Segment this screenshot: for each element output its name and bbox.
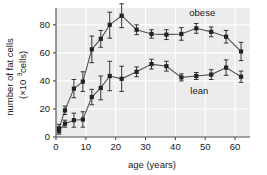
y-tick-label-80: 80 bbox=[39, 19, 50, 30]
data-point-marker bbox=[194, 26, 198, 30]
data-point-marker bbox=[194, 74, 198, 78]
y-tick-label-60: 60 bbox=[39, 47, 50, 58]
data-point-marker bbox=[108, 23, 112, 27]
data-point-marker bbox=[120, 77, 124, 81]
series-annotation-lean: lean bbox=[190, 85, 208, 96]
data-point-marker bbox=[90, 47, 94, 51]
y-axis-title-line2-suffix: cells) bbox=[17, 51, 28, 73]
data-point-marker bbox=[149, 32, 153, 36]
data-point-marker bbox=[81, 117, 85, 121]
series-annotation-obese: obese bbox=[189, 7, 215, 18]
data-point-marker bbox=[239, 49, 243, 53]
y-axis-title-line1: number of fat cells bbox=[4, 38, 15, 116]
fat-cells-vs-age-chart: 0204060800102030405060 obeselean age (ye… bbox=[0, 0, 267, 175]
data-point-marker bbox=[224, 35, 228, 39]
data-point-marker bbox=[90, 95, 94, 99]
data-point-marker bbox=[179, 75, 183, 79]
data-point-marker bbox=[209, 73, 213, 77]
y-tick-label-0: 0 bbox=[45, 131, 50, 142]
data-point-marker bbox=[72, 87, 76, 91]
data-point-marker bbox=[134, 28, 138, 32]
chart-figure: 0204060800102030405060 obeselean age (ye… bbox=[0, 0, 267, 175]
y-tick-label-40: 40 bbox=[39, 75, 50, 86]
x-tick-label-40: 40 bbox=[170, 141, 181, 152]
data-point-marker bbox=[149, 62, 153, 66]
data-point-marker bbox=[81, 80, 85, 84]
x-tick-label-10: 10 bbox=[81, 141, 92, 152]
x-axis-title: age (years) bbox=[128, 159, 176, 170]
x-tick-label-0: 0 bbox=[53, 141, 58, 152]
x-tick-label-60: 60 bbox=[230, 141, 241, 152]
data-point-marker bbox=[164, 64, 168, 68]
x-tick-label-20: 20 bbox=[110, 141, 121, 152]
x-tick-label-50: 50 bbox=[200, 141, 211, 152]
data-point-marker bbox=[99, 37, 103, 41]
data-point-marker bbox=[63, 122, 67, 126]
data-point-marker bbox=[99, 86, 103, 90]
data-point-marker bbox=[57, 129, 61, 133]
data-point-marker bbox=[239, 75, 243, 79]
data-point-marker bbox=[224, 65, 228, 69]
data-point-marker bbox=[134, 70, 138, 74]
data-point-marker bbox=[72, 118, 76, 122]
data-point-marker bbox=[209, 30, 213, 34]
y-axis-title-group: number of fat cells (×10 9 cells) bbox=[4, 38, 28, 116]
data-point-marker bbox=[120, 14, 124, 18]
data-point-marker bbox=[63, 108, 67, 112]
x-tick-label-30: 30 bbox=[140, 141, 151, 152]
y-axis-title-line2-prefix: (×10 bbox=[17, 80, 28, 99]
data-point-marker bbox=[164, 33, 168, 37]
y-tick-label-20: 20 bbox=[39, 103, 50, 114]
data-point-marker bbox=[179, 32, 183, 36]
data-point-marker bbox=[108, 74, 112, 78]
